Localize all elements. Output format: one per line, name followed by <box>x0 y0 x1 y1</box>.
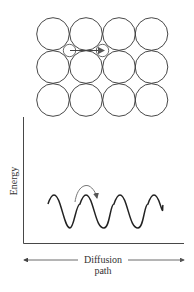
host-atom <box>103 84 136 117</box>
host-atom <box>70 18 103 51</box>
energy-curve <box>48 195 163 228</box>
host-atom <box>135 18 168 51</box>
host-atom <box>37 84 70 117</box>
hop-arrow-icon <box>75 186 97 202</box>
energy-axes <box>24 117 185 244</box>
host-atom <box>70 84 103 117</box>
host-atom <box>135 51 168 84</box>
x-axis-label-line1: Diffusion <box>84 254 122 265</box>
y-axis-label: Energy <box>8 167 19 196</box>
host-atom <box>37 51 70 84</box>
host-atom <box>103 51 136 84</box>
host-atom <box>135 84 168 117</box>
atom-lattice <box>37 18 168 117</box>
host-atom <box>103 18 136 51</box>
host-atom <box>37 18 70 51</box>
diffusion-diagram: Energy Diffusion path <box>0 0 194 292</box>
x-axis-label-line2: path <box>94 265 111 276</box>
host-atom <box>70 51 103 84</box>
